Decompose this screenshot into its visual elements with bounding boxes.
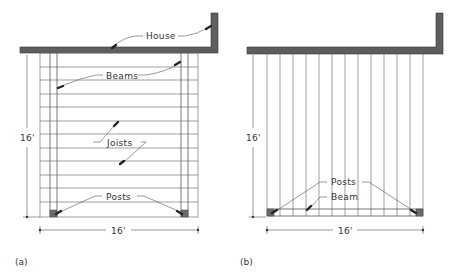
leader-posts-2 [362, 182, 412, 210]
caption-b: (b) [240, 257, 253, 267]
leader-beams-1 [62, 75, 103, 86]
panel-a: House Beams Joists Posts 16' [15, 13, 218, 267]
deck-framing-diagram: House Beams Joists Posts 16' [0, 0, 459, 280]
label-joists: Joists [106, 138, 132, 148]
label-beams: Beams [106, 71, 138, 81]
leader-house-2 [178, 28, 207, 36]
label-posts: Posts [331, 177, 356, 187]
dimension-width-label: 16' [111, 226, 126, 236]
arrow-icon [206, 26, 211, 29]
dimension-depth-label: 16' [20, 133, 35, 143]
leader-posts-1 [60, 196, 102, 212]
arrow-icon [114, 122, 118, 126]
leader-house-1 [115, 36, 143, 45]
panel-b: Posts Beam 16' 16' (b) [240, 13, 443, 267]
dimension-width-label: 16' [338, 226, 353, 236]
label-beam: Beam [331, 192, 358, 202]
leader-beams-2 [138, 65, 176, 75]
joists [40, 67, 198, 202]
caption-a: (a) [15, 257, 28, 267]
label-house: House [146, 31, 176, 41]
arrow-icon [175, 62, 180, 65]
arrow-icon [411, 210, 416, 213]
arrow-icon [58, 86, 63, 88]
label-posts: Posts [106, 192, 131, 202]
house-wall [20, 13, 218, 53]
leader-posts-2 [137, 196, 178, 211]
arrow-icon [120, 161, 124, 164]
dimension-depth-label: 16' [246, 133, 261, 143]
house-wall [247, 13, 443, 54]
